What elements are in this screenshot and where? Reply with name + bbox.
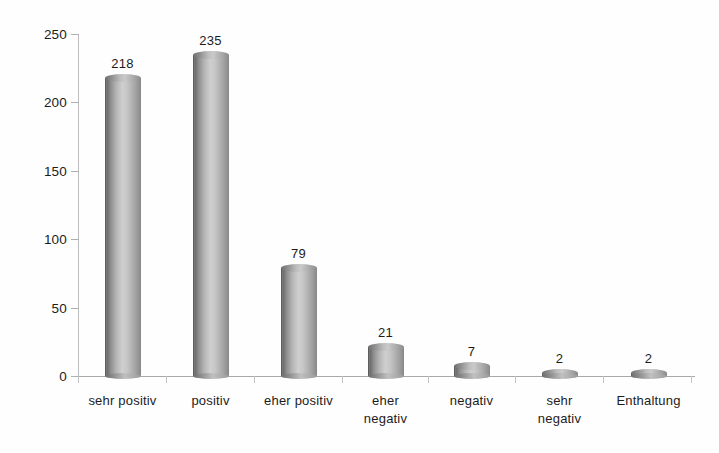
y-axis-tick-mark [71, 308, 79, 309]
y-axis-tick-label: 250 [27, 27, 67, 42]
bar [105, 78, 141, 376]
x-axis-category-label: negativ [450, 392, 493, 410]
y-axis-tick-mark [71, 171, 79, 172]
x-axis-tick-mark [78, 376, 79, 383]
bar-top-cap [193, 51, 229, 59]
bar-bottom-cap [368, 373, 404, 379]
bar-bottom-cap [193, 373, 229, 379]
bar-value-label: 7 [468, 344, 476, 359]
bar [193, 55, 229, 376]
x-axis-category-label: sehr negativ [538, 392, 581, 428]
x-axis-tick-mark [428, 376, 429, 383]
bar-bottom-cap [454, 373, 490, 379]
bar-bottom-cap [542, 373, 578, 379]
bar [281, 268, 317, 376]
x-axis-tick-mark [166, 376, 167, 383]
bar-top-cap [368, 343, 404, 351]
bar [542, 373, 578, 376]
y-axis-line [78, 34, 79, 376]
y-axis-tick-mark [71, 34, 79, 35]
x-axis-category-label: positiv [191, 392, 229, 410]
bar-top-cap [454, 362, 490, 370]
bar-value-label: 2 [556, 351, 564, 366]
bar [368, 347, 404, 376]
y-axis-tick-mark [71, 239, 79, 240]
bar-top-cap [105, 74, 141, 82]
x-axis-tick-mark [254, 376, 255, 383]
y-axis-tick-label: 0 [27, 369, 67, 384]
bar-value-label: 218 [111, 56, 134, 71]
y-axis-tick-label: 200 [27, 95, 67, 110]
bar-value-label: 79 [291, 246, 306, 261]
x-axis-category-label: eher negativ [364, 392, 407, 428]
y-axis-tick-label: 150 [27, 163, 67, 178]
y-axis-tick-label: 50 [27, 300, 67, 315]
bar-top-cap [281, 264, 317, 272]
x-axis-tick-mark [603, 376, 604, 383]
bar [454, 366, 490, 376]
bar-value-label: 235 [199, 33, 222, 48]
bar [631, 373, 667, 376]
bar-chart: 050100150200250 2182357921722 sehr posit… [0, 0, 719, 453]
bar-bottom-cap [281, 373, 317, 379]
x-axis-tick-mark [691, 376, 692, 383]
y-axis-tick-mark [71, 102, 79, 103]
y-axis-tick-label: 100 [27, 232, 67, 247]
x-axis-tick-mark [515, 376, 516, 383]
x-axis-category-label: sehr positiv [88, 392, 156, 410]
x-axis-tick-mark [342, 376, 343, 383]
bar-bottom-cap [631, 373, 667, 379]
x-axis-category-label: eher positiv [264, 392, 333, 410]
bar-bottom-cap [105, 373, 141, 379]
x-axis-category-label: Enthaltung [616, 392, 680, 410]
bar-value-label: 21 [378, 325, 393, 340]
bar-value-label: 2 [645, 351, 653, 366]
